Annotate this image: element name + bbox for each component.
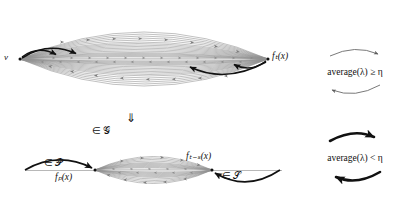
condition-high-cycle-bottom-arc: [332, 85, 380, 94]
condition-high-label: average(λ) ≥ η: [305, 68, 405, 78]
implication-membership-label: ∈ 𝒢: [92, 127, 110, 137]
implication-arrow-icon: ⇓: [126, 112, 136, 124]
upper-graph-lower-arcs: [20, 59, 268, 86]
lower-graph-left-vertex: [94, 169, 97, 172]
upper-graph-upper-arcs: [20, 32, 268, 59]
prefix-membership-label: ∈ 𝒫: [44, 159, 62, 169]
lower-graph-left-vertex-label: fₚ(x): [55, 173, 72, 183]
lower-graph-right-vertex-label: fₜ₋ₛ(x): [186, 152, 211, 162]
lower-graph-lower-arcs: [95, 170, 212, 184]
condition-high-cycle-top-arc: [330, 49, 378, 56]
upper-graph-right-vertex: [267, 58, 270, 61]
condition-low-label: average(λ) < η: [305, 154, 405, 164]
upper-graph-left-vertex-label: v: [4, 53, 8, 62]
lower-graph-right-vertex: [211, 169, 214, 172]
suffix-membership-label: ∈ 𝒮: [222, 172, 241, 182]
upper-lens-graph: [19, 32, 270, 86]
condition-low-cycle-top-arc: [330, 133, 374, 141]
upper-graph-left-vertex: [19, 58, 22, 61]
condition-low-cycle-bottom-arc: [336, 172, 380, 181]
upper-graph-right-vertex-label: fₜ(x): [272, 52, 288, 62]
